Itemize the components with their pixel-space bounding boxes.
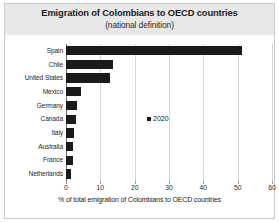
chart-figure: Emigration of Colombians to OECD countri…	[0, 0, 279, 222]
legend-label-2020: 2020	[153, 115, 169, 122]
bar-row	[66, 58, 272, 72]
category-label-canada: Canada	[41, 115, 64, 122]
legend-swatch-2020	[147, 117, 151, 121]
category-label-germany: Germany	[37, 102, 63, 109]
bar-row	[66, 167, 272, 181]
category-axis-labels: SpainChileUnited StatesMexicoGermanyCana…	[0, 44, 63, 181]
category-label-france: France	[43, 156, 63, 163]
category-label-chile: Chile	[48, 61, 63, 68]
bar-row	[66, 99, 272, 113]
bar-australia	[66, 142, 73, 151]
category-label-australia: Australia	[38, 143, 63, 150]
title-band: Emigration of Colombians to OECD countri…	[5, 4, 274, 35]
bar-netherlands	[66, 169, 71, 178]
x-axis-title: % of total emigration of Colombians to O…	[0, 196, 279, 203]
x-axis-tick-labels: 0102030405060	[0, 184, 279, 194]
bar-france	[66, 156, 73, 165]
category-label-italy: Italy	[51, 129, 63, 136]
bar-row	[66, 113, 272, 127]
bar-row	[66, 126, 272, 140]
x-tick-label-60: 60	[260, 184, 279, 191]
category-label-mexico: Mexico	[43, 88, 63, 95]
category-label-netherlands: Netherlands	[29, 170, 63, 177]
chart-subtitle: (national definition)	[5, 20, 274, 30]
category-label-united-states: United States	[25, 74, 63, 81]
bar-canada	[66, 115, 76, 124]
plot-area	[66, 44, 272, 181]
bar-italy	[66, 128, 74, 137]
bar-mexico	[66, 87, 81, 96]
x-tick-label-0: 0	[54, 184, 78, 191]
chart-title: Emigration of Colombians to OECD countri…	[5, 7, 274, 18]
x-tick-label-50: 50	[226, 184, 250, 191]
x-tick-label-20: 20	[123, 184, 147, 191]
bar-row	[66, 71, 272, 85]
bar-spain	[66, 46, 242, 55]
bar-germany	[66, 101, 77, 110]
gridline-60	[272, 44, 273, 181]
bar-row	[66, 154, 272, 168]
bar-row	[66, 140, 272, 154]
bar-united-states	[66, 73, 110, 82]
x-tick-label-10: 10	[88, 184, 112, 191]
bar-row	[66, 85, 272, 99]
x-tick-label-30: 30	[157, 184, 181, 191]
bar-chile	[66, 60, 113, 69]
legend: 2020	[147, 115, 169, 122]
x-tick-label-40: 40	[191, 184, 215, 191]
category-label-spain: Spain	[47, 47, 63, 54]
bar-row	[66, 44, 272, 58]
